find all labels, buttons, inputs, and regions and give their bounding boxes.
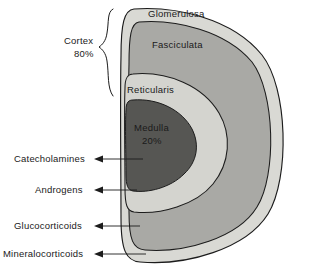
hormone-label-glucocorticoids: Glucocorticoids [14, 220, 82, 231]
hormone-label-mineralocorticoids: Mineralocorticoids [3, 248, 83, 259]
zone-label-medulla: Medulla [134, 122, 169, 133]
arrowhead-glucocorticoids [94, 223, 103, 230]
arrowhead-mineralocorticoids [94, 251, 103, 258]
zone-label-fasciculata: Fasciculata [152, 39, 203, 50]
zone-label-glomerulosa: Glomerulosa [148, 8, 205, 19]
zone-label-reticularis: Reticularis [127, 84, 174, 95]
cortex-bracket-brace [99, 9, 113, 96]
cortex-bracket-percent: 80% [74, 48, 94, 59]
adrenal-cross-section-figure: Glomerulosa Fasciculata Reticularis Medu… [0, 0, 318, 277]
zone-label-medulla-percent: 20% [142, 135, 162, 146]
adrenal-gland-diagram: Glomerulosa Fasciculata Reticularis Medu… [0, 0, 318, 277]
hormone-label-catecholamines: Catecholamines [14, 153, 85, 164]
arrowhead-catecholamines [94, 156, 103, 163]
hormone-label-androgens: Androgens [35, 184, 83, 195]
arrowhead-androgens [94, 187, 103, 194]
cortex-bracket-label: Cortex [64, 35, 93, 46]
